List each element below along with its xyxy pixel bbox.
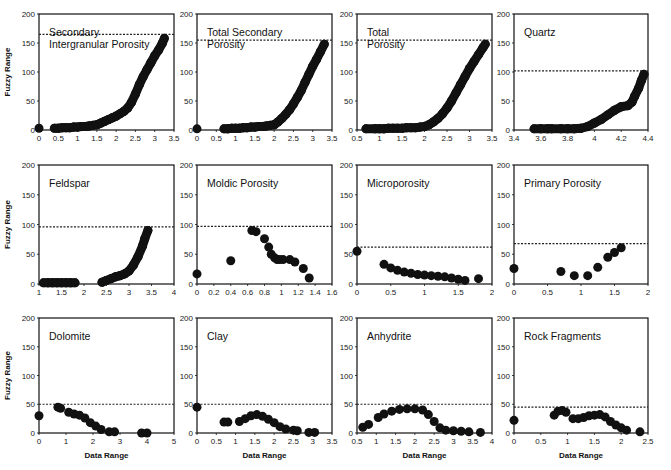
x-tick-label: 2.5	[288, 134, 300, 143]
x-tick-label: 0	[195, 134, 200, 143]
x-tick-label: 1	[377, 134, 382, 143]
y-tick-label: 200	[340, 161, 354, 170]
x-tick-label: 0.5	[542, 288, 554, 297]
x-tick-label: 4	[145, 437, 150, 446]
y-tick-label: 150	[497, 191, 511, 200]
y-tick-label: 0	[189, 280, 194, 289]
x-tick-label: 3.5	[486, 134, 498, 143]
panel-title: Clay	[207, 330, 229, 342]
panel-title: Porosity	[207, 38, 246, 50]
x-tick-label: 3.5	[467, 437, 479, 446]
x-axis-label: Data Range	[402, 451, 447, 460]
y-tick-label: 100	[497, 221, 511, 230]
x-tick-label: 0	[512, 288, 517, 297]
panel-title: Moldic Porosity	[207, 177, 279, 189]
x-tick-label: 1.2	[293, 288, 305, 297]
y-tick-label: 50	[344, 97, 353, 106]
x-tick-label: 1	[75, 134, 80, 143]
y-tick-label: 200	[22, 314, 36, 323]
panel-clay: 05010015020000.511.522.533.5ClayData Ran…	[180, 314, 338, 460]
x-tick-label: 0	[512, 437, 517, 446]
panel-title: Intergranular Porosity	[49, 38, 150, 50]
x-tick-label: 3	[310, 134, 315, 143]
y-tick-label: 100	[340, 68, 354, 77]
x-tick-label: 2.5	[101, 288, 113, 297]
panel-dolomite: 050100150200012345DolomiteFuzzy RangeDat…	[3, 314, 177, 460]
panel-title: Dolomite	[49, 330, 91, 342]
x-tick-label: 2	[91, 437, 96, 446]
x-tick-label: 4.2	[616, 134, 628, 143]
x-tick-label: 2	[490, 288, 495, 297]
x-tick-label: 1.5	[91, 134, 103, 143]
x-tick-label: 2	[413, 437, 418, 446]
y-tick-label: 100	[340, 221, 354, 230]
y-tick-label: 50	[184, 250, 193, 259]
y-tick-label: 150	[180, 343, 194, 352]
panel-title: Primary Porosity	[524, 177, 602, 189]
panel-title: Porosity	[367, 38, 406, 50]
y-tick-label: 100	[22, 372, 36, 381]
x-tick-label: 0	[37, 134, 42, 143]
panel-title: Total Secondary	[207, 26, 283, 38]
y-tick-label: 150	[180, 191, 194, 200]
x-tick-label: 1.5	[609, 288, 621, 297]
y-tick-label: 100	[497, 68, 511, 77]
x-tick-label: 3.5	[326, 437, 338, 446]
panel-title: Quartz	[524, 26, 556, 38]
x-tick-label: 4	[172, 288, 177, 297]
y-tick-label: 0	[31, 280, 36, 289]
panel-title: Rock Fragments	[524, 330, 601, 342]
panel-total-porosity: 0501001502000.511.522.533.5TotalPorosity	[340, 10, 498, 143]
x-tick-label: 3.8	[562, 134, 574, 143]
panel-microporosity: 05010015020000.511.52Microporosity	[340, 161, 495, 297]
x-tick-label: 0.5	[385, 288, 397, 297]
x-tick-label: 2	[272, 437, 277, 446]
panel-quartz: 0501001502003.43.63.844.24.4Quartz	[497, 10, 654, 143]
x-tick-label: 3	[152, 134, 157, 143]
y-tick-label: 150	[497, 39, 511, 48]
x-tick-label: 2.5	[429, 437, 441, 446]
x-tick-label: 1	[374, 437, 379, 446]
x-axis-label: Data Range	[84, 451, 129, 460]
x-tick-label: 3	[467, 134, 472, 143]
x-tick-label: 3	[451, 437, 456, 446]
y-tick-label: 100	[497, 372, 511, 381]
y-axis-label: Fuzzy Range	[3, 351, 12, 400]
x-tick-label: 1	[422, 288, 427, 297]
y-tick-label: 50	[26, 250, 35, 259]
x-tick-label: 0	[195, 288, 200, 297]
x-tick-label: 3.5	[168, 134, 180, 143]
x-tick-label: 1.5	[453, 288, 465, 297]
y-tick-label: 100	[340, 372, 354, 381]
x-tick-label: 1.4	[310, 288, 322, 297]
y-tick-label: 200	[22, 10, 36, 19]
y-axis-label: Fuzzy Range	[3, 200, 12, 249]
x-tick-label: 0	[37, 437, 42, 446]
y-tick-label: 150	[22, 191, 36, 200]
panel-total-secondary-porosity: 05010015020000.511.522.533.5Total Second…	[180, 10, 338, 143]
x-tick-label: 3	[127, 288, 132, 297]
x-tick-label: 0.5	[211, 437, 223, 446]
y-tick-label: 50	[501, 400, 510, 409]
x-tick-label: 0.5	[53, 134, 65, 143]
x-tick-label: 1.6	[326, 288, 338, 297]
x-tick-label: 4	[490, 437, 495, 446]
x-tick-label: 1.5	[390, 437, 402, 446]
y-tick-label: 150	[340, 39, 354, 48]
y-tick-label: 200	[340, 10, 354, 19]
y-axis-label: Fuzzy Range	[3, 47, 12, 96]
x-tick-label: 2	[619, 437, 624, 446]
panel-rock-fragments: 05010015020000.511.522.5Rock FragmentsDa…	[497, 314, 654, 460]
panel-secondary-intergranular-porosity: 05010015020000.511.522.533.5SecondaryInt…	[3, 10, 180, 143]
x-tick-label: 3	[310, 437, 315, 446]
y-tick-label: 200	[340, 314, 354, 323]
y-tick-label: 50	[501, 250, 510, 259]
x-tick-label: 1	[233, 437, 238, 446]
x-tick-label: 2	[82, 288, 87, 297]
x-tick-label: 1	[279, 288, 284, 297]
y-tick-label: 100	[22, 221, 36, 230]
x-tick-label: 2	[646, 288, 651, 297]
panel-title: Anhydrite	[367, 330, 412, 342]
x-tick-label: 1	[565, 437, 570, 446]
y-tick-label: 0	[189, 429, 194, 438]
